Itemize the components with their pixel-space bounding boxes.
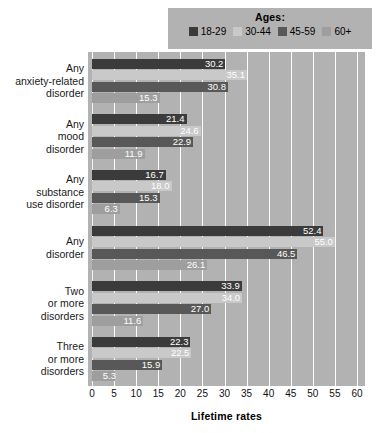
category-axis-labels: Anyanxiety-relateddisorderAnymooddisorde… — [0, 52, 84, 386]
x-tick-label: 15 — [153, 388, 164, 399]
category-label-line: disorder — [0, 143, 84, 156]
bar-row: 22.3 — [92, 337, 365, 347]
x-tick-label: 20 — [175, 388, 186, 399]
category-label: Anymooddisorder — [0, 118, 84, 156]
category-label-line: disorder — [0, 248, 84, 261]
bar[interactable] — [92, 226, 323, 236]
bar-value-label: 5.3 — [94, 372, 116, 382]
bar-row: 22.5 — [92, 348, 365, 358]
bar-row: 21.4 — [92, 114, 365, 124]
bar-row: 33.9 — [92, 281, 365, 291]
bar-value-label: 16.7 — [142, 170, 164, 180]
category-label-line: use disorder — [0, 198, 84, 211]
bar-value-label: 6.3 — [96, 205, 118, 215]
bar-value-label: 34.0 — [218, 293, 240, 303]
bar-value-label: 33.9 — [218, 281, 240, 291]
x-tick-label: 45 — [285, 388, 296, 399]
bar-value-label: 21.4 — [163, 114, 185, 124]
category-label-line: disorders — [0, 365, 84, 378]
bar-group: 16.718.015.36.3 — [88, 163, 365, 219]
bar-value-label: 24.6 — [177, 126, 199, 136]
category-label-line: mood — [0, 130, 84, 143]
legend-items: 18-2930-4445-5960+ — [168, 26, 372, 37]
bar-row: 30.2 — [92, 59, 365, 69]
bar-value-label: 46.5 — [273, 249, 295, 259]
bar-value-label: 15.9 — [138, 360, 160, 370]
bar-value-label: 22.5 — [167, 349, 189, 359]
bar-group: 21.424.622.911.9 — [88, 108, 365, 164]
x-tick-label: 25 — [197, 388, 208, 399]
bar-row: 15.9 — [92, 360, 365, 370]
category-label-line: substance — [0, 186, 84, 199]
bar-row: 24.6 — [92, 126, 365, 136]
x-tick-label: 35 — [241, 388, 252, 399]
legend-swatch-icon — [278, 27, 287, 36]
x-tick-label: 60 — [351, 388, 362, 399]
legend-item-4559[interactable]: 45-59 — [278, 26, 316, 37]
legend-title: Ages: — [168, 11, 372, 23]
bar-group: 52.455.046.526.1 — [88, 219, 365, 275]
bar-row: 27.0 — [92, 304, 365, 314]
plot-area: 30.235.130.815.321.424.622.911.916.718.0… — [88, 52, 365, 386]
category-label: Anysubstanceuse disorder — [0, 173, 84, 211]
category-label: Anyanxiety-relateddisorder — [0, 62, 84, 100]
x-tick-label: 5 — [111, 388, 117, 399]
bar-value-label: 15.3 — [136, 193, 158, 203]
bar-value-label: 26.1 — [183, 260, 205, 270]
bar-value-label: 22.3 — [166, 337, 188, 347]
category-label-line: or more — [0, 353, 84, 366]
bar-value-label: 22.9 — [169, 137, 191, 147]
category-label-line: disorders — [0, 310, 84, 323]
legend-item-label: 45-59 — [290, 26, 316, 37]
bar-row: 35.1 — [92, 70, 365, 80]
bar-value-label: 15.3 — [136, 93, 158, 103]
category-label-line: Three — [0, 340, 84, 353]
bar-group: 33.934.027.011.6 — [88, 275, 365, 331]
bar-chart: Ages: 18-2930-4445-5960+ Anyanxiety-rela… — [0, 0, 380, 433]
bar-group: 30.235.130.815.3 — [88, 52, 365, 108]
legend-item-label: 30-44 — [245, 26, 271, 37]
legend-swatch-icon — [322, 27, 331, 36]
bar-row: 34.0 — [92, 293, 365, 303]
bar-row: 52.4 — [92, 226, 365, 236]
category-label-line: disorder — [0, 87, 84, 100]
bar-groups: 30.235.130.815.321.424.622.911.916.718.0… — [88, 52, 365, 386]
category-label-line: Any — [0, 118, 84, 131]
bar-value-label: 52.4 — [299, 226, 321, 236]
x-tick-label: 55 — [329, 388, 340, 399]
bar-value-label: 35.1 — [223, 70, 245, 80]
bar-row: 11.9 — [92, 149, 365, 159]
bar-value-label: 30.8 — [204, 82, 226, 92]
bar-value-label: 11.6 — [119, 316, 141, 326]
bar-value-label: 55.0 — [311, 237, 333, 247]
bar-row: 46.5 — [92, 249, 365, 259]
bar-row: 15.3 — [92, 93, 365, 103]
bar[interactable] — [92, 237, 335, 247]
x-axis-ticks: 051015202530354045505560 — [88, 388, 365, 404]
bar-row: 22.9 — [92, 137, 365, 147]
x-tick-label: 10 — [131, 388, 142, 399]
bar-value-label: 30.2 — [201, 59, 223, 69]
chart-legend: Ages: 18-2930-4445-5960+ — [168, 8, 372, 49]
bar-row: 26.1 — [92, 260, 365, 270]
bar-row: 6.3 — [92, 204, 365, 214]
bar-row: 18.0 — [92, 181, 365, 191]
category-label-line: Any — [0, 235, 84, 248]
category-label-line: anxiety-related — [0, 75, 84, 88]
category-label: Twoor moredisorders — [0, 285, 84, 323]
legend-swatch-icon — [189, 27, 198, 36]
category-label-line: Any — [0, 62, 84, 75]
bar-row: 5.3 — [92, 371, 365, 381]
legend-item-60+[interactable]: 60+ — [322, 26, 351, 37]
legend-item-3044[interactable]: 30-44 — [233, 26, 271, 37]
x-tick-label: 40 — [263, 388, 274, 399]
category-label-line: or more — [0, 297, 84, 310]
bar-value-label: 27.0 — [187, 304, 209, 314]
x-tick-label: 0 — [89, 388, 95, 399]
legend-item-1829[interactable]: 18-29 — [189, 26, 227, 37]
category-label: Anydisorder — [0, 235, 84, 260]
legend-item-label: 18-29 — [201, 26, 227, 37]
bar[interactable] — [92, 249, 297, 259]
legend-item-label: 60+ — [334, 26, 351, 37]
bar-row: 16.7 — [92, 170, 365, 180]
